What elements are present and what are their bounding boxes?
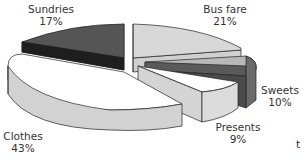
label-clothes-name: Clothes <box>0 130 46 142</box>
label-busfare-name: Bus fare <box>200 3 250 15</box>
label-sweets: Sweets 10% <box>257 84 303 108</box>
label-clothes-value: 43% <box>0 142 46 154</box>
label-sweets-value: 10% <box>257 96 303 108</box>
label-sweets-name: Sweets <box>257 84 303 96</box>
label-sundries: Sundries 17% <box>26 3 76 27</box>
label-presents-name: Presents <box>210 121 266 133</box>
label-busfare: Bus fare 21% <box>200 3 250 27</box>
label-busfare-value: 21% <box>200 15 250 27</box>
label-presents-value: 9% <box>210 133 266 145</box>
label-sundries-name: Sundries <box>26 3 76 15</box>
label-sundries-value: 17% <box>26 15 76 27</box>
label-clothes: Clothes 43% <box>0 130 46 154</box>
label-presents: Presents 9% <box>210 121 266 145</box>
stray-text-fragment: t <box>296 138 300 151</box>
